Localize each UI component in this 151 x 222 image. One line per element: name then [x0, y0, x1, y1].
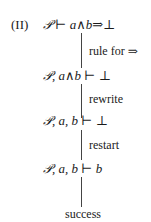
sequent-2: 𝒫, a∧b ⊢ ⊥	[43, 69, 111, 82]
edge-4	[81, 177, 82, 207]
sequent-4: 𝒫, a, b ⊢ b	[43, 162, 102, 175]
sequent-1: 𝒫 ⊢ a∧b⇒⊥	[43, 18, 115, 31]
rule-label-1: rule for ⇒	[89, 45, 138, 57]
sequent-3: 𝒫, a, b ⊢ ⊥	[43, 114, 108, 127]
result-label: success	[65, 208, 101, 220]
rule-label-2: rewrite	[89, 93, 123, 105]
derivation-label: (II)	[11, 18, 28, 31]
edge-1	[81, 33, 82, 68]
edge-3	[81, 130, 82, 160]
rule-label-3: restart	[89, 139, 119, 151]
